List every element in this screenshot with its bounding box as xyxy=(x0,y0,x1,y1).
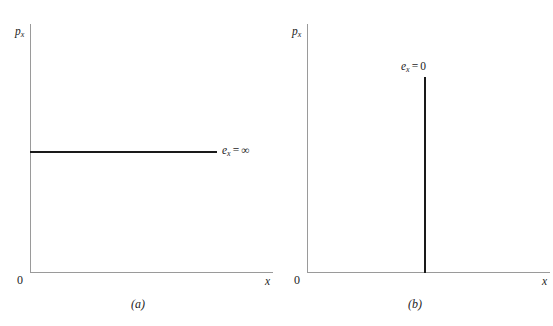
annotation-equals-b: = xyxy=(410,60,421,72)
annotation-value-a: ∞ xyxy=(241,144,249,156)
y-axis-label-panel-b: px xyxy=(292,26,301,38)
annotation-value-b: 0 xyxy=(420,60,426,72)
figure-canvas: px x 0 ex=∞ (a) px x 0 ex=0 (b) xyxy=(0,0,553,326)
x-axis-label-panel-b: x xyxy=(542,276,547,288)
x-axis-label-panel-a: x xyxy=(265,276,270,288)
elasticity-annotation-panel-b: ex=0 xyxy=(401,61,426,73)
y-axis-label-symbol: p xyxy=(292,25,298,37)
origin-label-panel-a: 0 xyxy=(17,274,23,286)
y-axis-label-symbol: p xyxy=(15,25,21,37)
elasticity-annotation-panel-a: ex=∞ xyxy=(222,145,249,157)
perfectly-inelastic-curve xyxy=(424,77,426,273)
annotation-equals-a: = xyxy=(231,144,242,156)
annotation-symbol-b: ex xyxy=(401,60,410,72)
caption-panel-b: (b) xyxy=(277,298,553,310)
perfectly-elastic-curve xyxy=(30,151,217,153)
y-axis-panel-b xyxy=(307,24,308,273)
origin-label-panel-b: 0 xyxy=(294,274,300,286)
panel-a: px x 0 ex=∞ (a) xyxy=(0,0,276,326)
x-axis-panel-b xyxy=(307,272,550,273)
caption-panel-a: (a) xyxy=(0,298,276,310)
y-axis-label-subscript: x xyxy=(298,30,302,39)
annotation-symbol-a: ex xyxy=(222,144,231,156)
y-axis-label-subscript: x xyxy=(21,30,25,39)
y-axis-label-panel-a: px xyxy=(15,26,24,38)
y-axis-panel-a xyxy=(30,24,31,273)
panel-b: px x 0 ex=0 (b) xyxy=(277,0,553,326)
x-axis-panel-a xyxy=(30,272,273,273)
